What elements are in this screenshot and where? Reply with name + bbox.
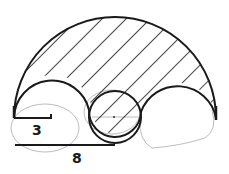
shaded-region — [0, 0, 229, 174]
label-3: 3 — [32, 122, 42, 138]
label-8: 8 — [72, 150, 82, 166]
diagram-canvas — [0, 0, 229, 174]
